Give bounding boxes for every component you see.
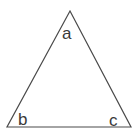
vertex-label-c: c: [109, 112, 118, 129]
triangle-diagram: a b c: [0, 0, 139, 137]
vertex-label-b: b: [18, 111, 27, 128]
vertex-label-a: a: [62, 25, 71, 42]
